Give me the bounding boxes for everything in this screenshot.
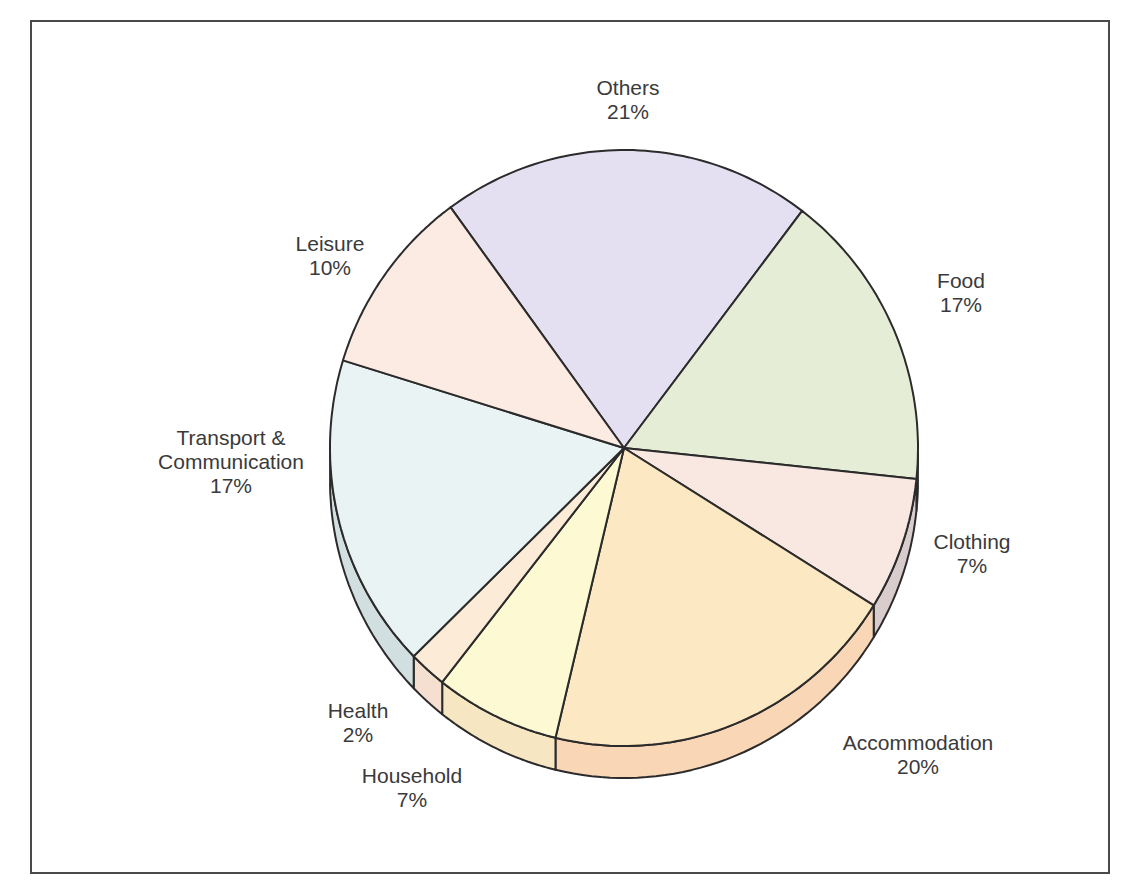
slice-label-household: Household7% <box>362 764 462 812</box>
slice-label-percent: 20% <box>843 755 994 779</box>
slice-label-accommodation: Accommodation20% <box>843 731 994 779</box>
slice-label-health: Health2% <box>328 699 389 747</box>
slice-label-name: Leisure <box>296 232 365 256</box>
slice-label-name: Food <box>937 269 985 293</box>
slice-label-percent: 17% <box>937 293 985 317</box>
slice-label-clothing: Clothing7% <box>933 530 1010 578</box>
slice-label-name: Communication <box>158 450 304 474</box>
slice-label-name: Accommodation <box>843 731 994 755</box>
slice-label-percent: 7% <box>362 788 462 812</box>
slice-label-others: Others21% <box>596 76 659 124</box>
slice-label-percent: 2% <box>328 723 389 747</box>
slice-label-percent: 7% <box>933 554 1010 578</box>
slice-label-name: Others <box>596 76 659 100</box>
slice-label-name: Transport & <box>158 426 304 450</box>
pie-top-face <box>330 150 918 746</box>
slice-label-name: Health <box>328 699 389 723</box>
slice-label-name: Clothing <box>933 530 1010 554</box>
slice-label-name: Household <box>362 764 462 788</box>
slice-label-percent: 21% <box>596 100 659 124</box>
slice-label-transport-communication: Transport &Communication17% <box>158 426 304 498</box>
slice-label-food: Food17% <box>937 269 985 317</box>
slice-label-percent: 10% <box>296 256 365 280</box>
slice-label-leisure: Leisure10% <box>296 232 365 280</box>
slice-label-percent: 17% <box>158 474 304 498</box>
